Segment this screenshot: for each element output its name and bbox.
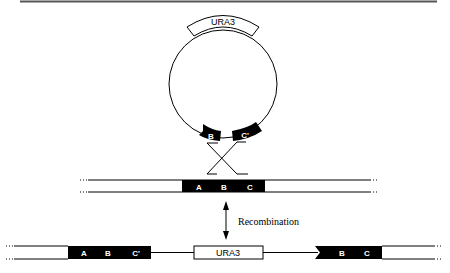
arrow-up-icon	[223, 201, 229, 210]
product-right-block	[315, 246, 382, 259]
chromosome-label-b: B	[221, 183, 227, 192]
plasmid: URA3 B C'	[169, 16, 277, 142]
product-left-label-a: A	[81, 249, 87, 258]
plasmid-circle	[169, 30, 277, 138]
recombination-arrow: Recombination	[223, 201, 299, 240]
product-right-label-c: C	[364, 249, 370, 258]
plasmid-ura3-label: URA3	[211, 17, 235, 27]
product-ura3-label: URA3	[216, 248, 240, 258]
product-left-label-c-prime: C'	[132, 249, 140, 258]
arrow-down-icon	[223, 231, 229, 240]
integration-diagram: URA3 B C' A B C Recombination	[0, 0, 450, 273]
product-left-label-b: B	[105, 249, 111, 258]
product-right-label-b: B	[339, 249, 345, 258]
chromosome-label-c: C	[247, 183, 253, 192]
recombination-label: Recombination	[238, 216, 299, 227]
chromosome: A B C	[80, 180, 378, 192]
chromosome-label-a: A	[196, 183, 202, 192]
plasmid-segment-b-label: B	[208, 132, 214, 141]
crossover-icon	[207, 142, 248, 174]
plasmid-segment-c-prime-label: C'	[241, 131, 249, 140]
integrated-product: A B C' URA3 B C	[6, 246, 442, 259]
